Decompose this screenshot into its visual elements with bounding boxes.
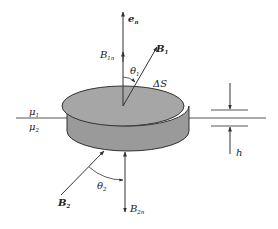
delta-s-label: ΔS (152, 78, 167, 89)
b1n-label: B1n (99, 49, 115, 61)
theta2-label: θ2 (97, 180, 107, 192)
b2-label: B2 (57, 197, 70, 209)
mu2-label: μ2 (29, 121, 40, 133)
theta1-label: θ1 (130, 65, 140, 77)
h-label: h (236, 147, 242, 158)
normal-label: en (128, 13, 138, 25)
pillbox-diagram: en B1n B1 θ1 ΔS μ1 μ2 h θ2 B2 B2n (0, 0, 278, 229)
theta2-arc (89, 167, 123, 180)
b2n-label: B2n (129, 203, 145, 215)
mu1-label: μ1 (29, 106, 39, 118)
b1-label: B1 (155, 43, 168, 55)
theta1-arc (123, 77, 135, 82)
